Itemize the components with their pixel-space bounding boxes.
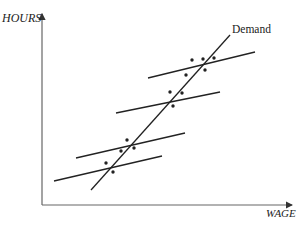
- x-axis-label: WAGE: [266, 207, 296, 219]
- data-point: [125, 138, 128, 141]
- wage-hours-diagram: HOURS WAGE Demand: [0, 0, 308, 227]
- supply-line-1: [148, 52, 255, 78]
- supply-line-2: [116, 92, 220, 113]
- data-point: [104, 161, 107, 164]
- data-point: [111, 170, 114, 173]
- data-point: [180, 91, 183, 94]
- supply-line-4: [54, 156, 162, 181]
- demand-label: Demand: [232, 23, 271, 35]
- data-point: [184, 73, 187, 76]
- data-point: [212, 56, 215, 59]
- data-point: [132, 146, 135, 149]
- data-point: [171, 104, 174, 107]
- y-axis-label: HOURS: [1, 11, 41, 25]
- data-point: [119, 149, 122, 152]
- data-point: [203, 68, 206, 71]
- data-point: [190, 58, 193, 61]
- data-point: [201, 57, 204, 60]
- supply-line-3: [76, 133, 185, 158]
- demand-line: [91, 35, 230, 190]
- supply-lines: [54, 52, 255, 181]
- data-point: [168, 90, 171, 93]
